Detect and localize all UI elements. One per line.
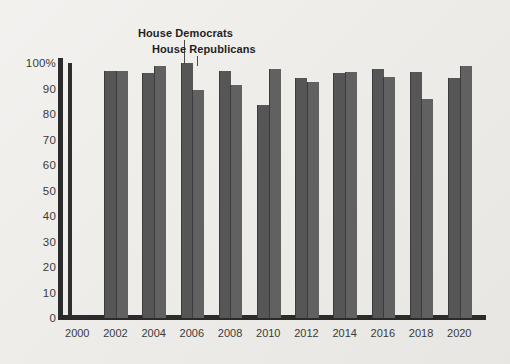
bar-2018-democrats <box>410 72 422 318</box>
bar-2014-republicans <box>345 72 357 318</box>
x-axis-tick-2018: 2018 <box>409 327 433 339</box>
annotation-house-republicans: House Republicans <box>152 43 256 55</box>
bar-2014-democrats <box>333 73 345 318</box>
y-axis-tick-90: 90 <box>8 83 56 95</box>
x-axis-tick-2016: 2016 <box>371 327 395 339</box>
x-axis-tick-2006: 2006 <box>180 327 204 339</box>
bar-2006-republicans <box>192 90 204 318</box>
bar-2002-democrats <box>104 71 116 318</box>
bar-2008-republicans <box>230 85 242 318</box>
y-axis-line <box>58 58 63 320</box>
y-axis-tick-40: 40 <box>8 210 56 222</box>
bar-2010-republicans <box>269 69 281 318</box>
x-axis-tick-2020: 2020 <box>447 327 471 339</box>
chart-canvas: 100% 90 80 70 60 50 40 30 20 10 0 200020… <box>0 0 510 364</box>
annotation-leader-line-republicans <box>197 56 198 66</box>
bar-2012-democrats <box>295 78 307 318</box>
bar-2004-republicans <box>154 66 166 318</box>
y-axis-tick-0: 0 <box>8 312 56 324</box>
plot-area: 100% 90 80 70 60 50 40 30 20 10 0 200020… <box>0 0 510 364</box>
bar-2020-democrats <box>448 78 460 318</box>
bar-2006-democrats <box>181 63 193 318</box>
y-axis-tick-70: 70 <box>8 134 56 146</box>
annotation-house-democrats: House Democrats <box>138 27 233 39</box>
bar-2012-republicans <box>307 82 319 318</box>
y-axis-tick-20: 20 <box>8 261 56 273</box>
x-axis-tick-2000: 2000 <box>65 327 89 339</box>
bar-2018-republicans <box>421 99 433 318</box>
bar-2016-republicans <box>383 77 395 318</box>
x-axis-tick-2010: 2010 <box>256 327 280 339</box>
y-axis-tick-50: 50 <box>8 185 56 197</box>
x-axis-tick-2008: 2008 <box>218 327 242 339</box>
bar-2002-republicans <box>116 71 128 318</box>
bar-2020-republicans <box>460 66 472 318</box>
bar-2008-democrats <box>219 71 231 318</box>
y-axis-tick-100: 100% <box>8 57 56 69</box>
y-axis-tick-60: 60 <box>8 159 56 171</box>
y-axis-tick-10: 10 <box>8 287 56 299</box>
y-axis-tick-labels: 100% 90 80 70 60 50 40 30 20 10 0 <box>0 0 56 364</box>
y-axis-tick-30: 30 <box>8 236 56 248</box>
x-axis-tick-2012: 2012 <box>294 327 318 339</box>
x-axis-tick-2014: 2014 <box>332 327 356 339</box>
x-axis-tick-2004: 2004 <box>141 327 165 339</box>
bar-2010-democrats <box>257 105 269 318</box>
x-axis-tick-2002: 2002 <box>103 327 127 339</box>
bar-2016-democrats <box>372 69 384 318</box>
y-axis-tick-80: 80 <box>8 108 56 120</box>
bar-2000-combined <box>68 63 72 318</box>
bar-2004-democrats <box>142 73 154 318</box>
